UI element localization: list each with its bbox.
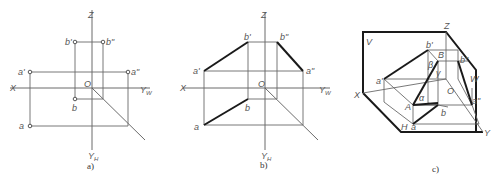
label-a-front: a' [376,76,383,86]
label-gamma: γ [436,68,441,78]
label-a-side: a" [472,96,481,106]
label-plane-v: V [366,37,373,47]
figure-a: Z X YW YH O a' a" a b' b" b a) [9,10,153,171]
label-a-front: a' [193,66,200,76]
diagonal-45 [92,88,145,140]
label-a-top: a [411,122,416,132]
label-beta: β [427,60,433,70]
label-origin: O [447,86,454,96]
label-z: Z [443,21,450,31]
label-z: Z [260,10,267,20]
point-b-top [73,97,77,101]
point-a-front [28,70,32,74]
segment-ab-side [277,42,303,71]
label-plane-w: W [470,74,480,84]
label-a-top: a [19,121,24,131]
label-b-side: b" [460,55,469,65]
caption-b: b) [260,160,268,170]
label-yw: YW [319,85,332,96]
label-a-side: a" [131,67,140,77]
label-b-top: b [245,103,250,113]
label-x: X [179,83,187,93]
point-b-side [101,40,105,44]
figure-c: V W H Z X Y O a' a" a b' b" b A B α β γ … [353,21,491,174]
label-plane-h: H [401,122,408,132]
label-a-top: a [194,122,199,132]
label-B: B [438,50,444,60]
segment-ab-front [204,42,248,71]
segment-ab-top [204,99,248,125]
label-b-top: b [441,108,446,118]
label-z: Z [87,10,94,20]
diagonal-45 [265,88,318,140]
label-A: A [404,102,411,112]
label-x: X [353,90,361,100]
projection-diagrams: Z X YW YH O a' a" a b' b" b a) Z X YW YH… [0,0,493,181]
label-b-front: b' [65,37,72,47]
label-y: Y [484,128,491,138]
label-a-side: a" [306,66,315,76]
figure-b: Z X YW YH O a' a" a b' b" b b) [179,10,332,170]
segment-front-proj [384,50,428,79]
label-b-side: b" [106,37,115,47]
label-b-top: b [72,103,77,113]
point-b-front [73,40,77,44]
caption-c: c) [432,164,439,174]
label-b-front: b' [244,32,251,42]
label-alpha: α [419,93,425,103]
segment-AB [413,61,438,105]
caption-a: a) [87,161,94,171]
label-a-front: a' [18,67,25,77]
point-a-side [126,70,130,74]
label-x: X [9,83,17,93]
segment-top-proj [413,105,438,124]
label-origin: O [84,79,91,89]
label-origin: O [258,79,265,89]
point-a-top [28,124,32,128]
label-b-side: b" [280,32,289,42]
label-b-front: b' [426,40,433,50]
label-yw: YW [140,85,153,96]
